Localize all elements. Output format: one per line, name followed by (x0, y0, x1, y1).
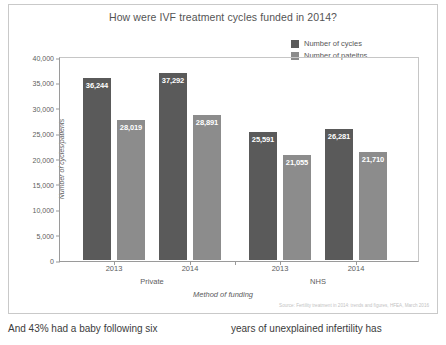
bar: 21,710 (358, 151, 388, 261)
bar: 26,281 (324, 128, 354, 261)
x-axis-tick-label: 2013 (106, 264, 123, 273)
y-axis-tick-label: 10,000 (33, 207, 60, 214)
chart-title: How were IVF treatment cycles funded in … (9, 11, 437, 23)
bar: 28,019 (116, 119, 146, 261)
y-axis-tick-label: 35,000 (33, 80, 60, 87)
bar-value-label: 21,710 (359, 155, 387, 164)
legend-label-cycles: Number of cycles (304, 39, 362, 48)
plot-area: 40,00035,00030,00025,00020,00015,00010,0… (59, 57, 419, 262)
article-body: And 43% had a baby following six years o… (8, 322, 438, 335)
bar: 21,055 (282, 154, 312, 261)
x-axis-tick-label: 2014 (348, 264, 365, 273)
y-axis-tick-label: 20,000 (33, 156, 60, 163)
y-axis-tick-label: 0 (50, 258, 60, 265)
x-axis-title: Method of funding (9, 290, 437, 299)
bar-value-label: 36,244 (83, 81, 111, 90)
y-axis-tick-label: 15,000 (33, 181, 60, 188)
bar: 25,591 (248, 131, 278, 261)
body-column-right: years of unexplained infertility has (231, 322, 438, 335)
y-axis-tick-label: 40,000 (33, 55, 60, 62)
y-axis-tick-label: 25,000 (33, 131, 60, 138)
x-axis-group-label: NHS (310, 277, 326, 286)
bar: 28,891 (192, 114, 222, 261)
bar: 36,244 (82, 77, 112, 261)
bar-value-label: 28,891 (193, 118, 221, 127)
x-axis-group-label: Private (140, 277, 163, 286)
bar-value-label: 26,281 (325, 132, 353, 141)
source-note: Source: Fertility treatment in 2014: tre… (279, 303, 429, 308)
bar-value-label: 21,055 (283, 158, 311, 167)
y-axis-tick-label: 5,000 (36, 232, 60, 239)
legend-swatch-cycles (291, 40, 299, 48)
x-axis-group-separator (235, 261, 236, 265)
bar: 37,292 (158, 72, 188, 261)
chart-figure-panel: How were IVF treatment cycles funded in … (8, 4, 438, 314)
y-axis-tick-label: 30,000 (33, 105, 60, 112)
x-axis-tick-label: 2013 (272, 264, 289, 273)
body-column-left: And 43% had a baby following six (8, 322, 215, 335)
bar-value-label: 37,292 (159, 76, 187, 85)
x-axis-tick-label: 2014 (182, 264, 199, 273)
legend-item-cycles: Number of cycles (291, 39, 367, 48)
bar-value-label: 25,591 (249, 135, 277, 144)
bar-value-label: 28,019 (117, 123, 145, 132)
